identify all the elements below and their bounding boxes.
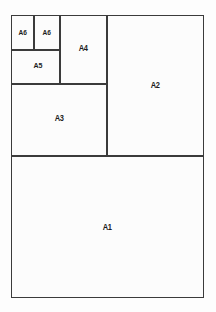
region-a4-label: A4 <box>79 44 88 53</box>
region-a2-label: A2 <box>151 81 160 90</box>
region-a6-right-label: A6 <box>43 29 51 37</box>
paper-size-diagram: A1 A2 A3 A4 A5 A6 A6 <box>0 0 216 312</box>
region-a3-label: A3 <box>54 114 63 123</box>
region-a6-left: A6 <box>11 15 34 50</box>
region-a4: A4 <box>60 15 107 84</box>
region-a6-left-label: A6 <box>18 29 26 37</box>
region-a1-label: A1 <box>103 223 112 232</box>
region-a6-right: A6 <box>34 15 60 50</box>
region-a5: A5 <box>11 50 60 84</box>
region-a5-label: A5 <box>33 62 42 70</box>
region-a3: A3 <box>11 84 107 156</box>
region-a1: A1 <box>11 156 204 298</box>
region-a2: A2 <box>107 15 204 156</box>
